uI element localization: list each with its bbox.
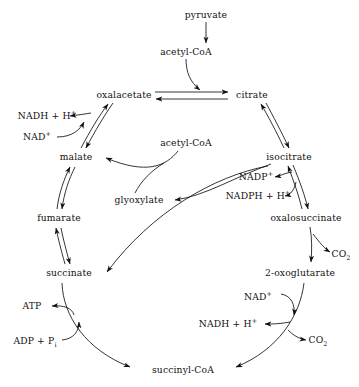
arrow-succinylcoa-to-succinate (62, 283, 130, 367)
cofactor-atp: ATP (23, 301, 42, 310)
node-fumarate: fumarate (37, 213, 81, 222)
arrow-layer (0, 0, 359, 387)
cofactor-nadph-h-isocitrate: NADPH + H+ (226, 191, 291, 200)
node-malate: malate (60, 152, 93, 161)
cofactor-nadh-h-oxoglutarate: NADH + H+ (199, 319, 257, 328)
arrow-nad-consumed-malate (57, 122, 84, 137)
node-glyoxylate: glyoxylate (115, 195, 164, 204)
arrow-succinate-to-fumarate (56, 228, 65, 264)
node-oxalosuccinate: oxalosuccinate (270, 213, 341, 222)
arrow-fumarate-to-succinate (61, 228, 70, 264)
line-glyoxylate-to-malate-synthase (135, 163, 164, 193)
cofactor-co2-oxalosuccinate: CO2 (331, 249, 350, 258)
node-oxalacetate: oxalacetate (96, 90, 151, 99)
cofactor-nadh-h-malate: NADH + H+ (18, 111, 76, 120)
cofactor-nadp-isocitrate: NADP+ (239, 172, 273, 181)
arrow-malate-to-fumarate (62, 167, 75, 209)
arrow-nad-consumed-oxoglut (281, 294, 294, 315)
cofactor-adp-pi: ADP + Pi (13, 336, 56, 345)
node-citrate: citrate (236, 90, 268, 99)
node-pyruvate: pyruvate (185, 10, 227, 19)
arrow-oxalosuccinate-to-oxoglutarate (310, 227, 312, 262)
arrow-nadp-consumed (275, 172, 292, 177)
arrow-oxalacetate-to-malate (86, 103, 113, 148)
node-2-oxoglutarate: 2-oxoglutarate (265, 268, 335, 277)
metabolic-pathway-diagram: pyruvate acetyl-CoA oxalacetate citrate … (0, 0, 359, 387)
node-isocitrate: isocitrate (266, 152, 311, 161)
arrow-nadh-produced-oxoglut (265, 322, 290, 324)
arrow-acetylcoa-glyoxylate-to-malate (106, 151, 178, 167)
node-succinate: succinate (46, 268, 92, 277)
cofactor-nad-oxoglutarate: NAD+ (244, 292, 272, 301)
arrow-fumarate-to-malate (57, 167, 70, 209)
cofactor-nad-malate: NAD+ (23, 132, 51, 141)
arrow-co2-release-oxalosuccinate (313, 234, 330, 252)
arrow-acetylcoa-condensation (186, 59, 200, 90)
node-succinyl-coa: succinyl-CoA (152, 365, 214, 374)
arrow-adp-pi-consumed (62, 322, 79, 340)
cofactor-co2-oxoglutarate: CO2 (308, 335, 327, 344)
arrow-isocitrate-to-citrate (261, 104, 284, 148)
arrow-co2-release-oxoglut (288, 330, 306, 340)
node-acetyl-coa-top: acetyl-CoA (160, 47, 212, 56)
arrow-atp-produced (52, 306, 74, 315)
arrow-malate-to-oxalacetate (81, 104, 108, 148)
arrow-citrate-to-isocitrate (266, 103, 289, 148)
node-acetyl-coa-mid: acetyl-CoA (160, 138, 212, 147)
